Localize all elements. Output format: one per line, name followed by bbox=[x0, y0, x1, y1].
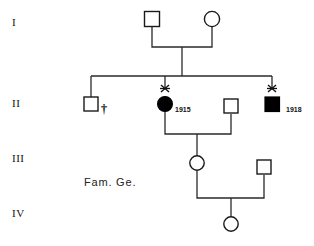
generation-label-IV: IV bbox=[12, 207, 25, 219]
symbol-square-unaffected-male[interactable] bbox=[224, 99, 238, 113]
deceased-dagger-icon: † bbox=[101, 102, 107, 116]
symbol-square-affected-male[interactable] bbox=[265, 97, 280, 112]
connector-lines bbox=[91, 27, 272, 217]
symbol-circle-affected-female[interactable] bbox=[158, 97, 173, 112]
symbol-square-unaffected-male[interactable] bbox=[145, 12, 160, 27]
generation-label-I: I bbox=[12, 16, 16, 28]
symbol-circle-unaffected-female[interactable] bbox=[190, 156, 204, 170]
individual-I-2[interactable] bbox=[204, 11, 219, 26]
individual-II-3[interactable] bbox=[224, 99, 238, 113]
marriage-line-union-III bbox=[197, 170, 264, 198]
pedigree-canvas: I II III IV bbox=[0, 0, 314, 246]
birth-year-label: 1915 bbox=[175, 106, 191, 113]
symbol-square-unaffected-male[interactable] bbox=[84, 97, 98, 111]
individual-III-2[interactable] bbox=[257, 160, 271, 174]
individual-II-2[interactable]: 1915 bbox=[158, 85, 191, 113]
marriage-line-union-I bbox=[152, 27, 212, 47]
individual-I-1[interactable] bbox=[145, 12, 160, 27]
individual-II-4[interactable]: 1918 bbox=[265, 85, 302, 113]
symbol-circle-unaffected-female[interactable] bbox=[204, 11, 219, 26]
birth-year-label: 1918 bbox=[286, 106, 302, 113]
generation-labels: I II III IV bbox=[12, 16, 25, 219]
generation-label-II: II bbox=[12, 97, 20, 109]
generation-label-III: III bbox=[12, 152, 25, 164]
symbol-square-unaffected-male[interactable] bbox=[257, 160, 271, 174]
symbol-circle-unaffected-female[interactable] bbox=[224, 217, 238, 231]
marriage-line-union-II bbox=[165, 112, 231, 134]
family-name-label: Fam. Ge. bbox=[84, 176, 136, 188]
pedigree-chart-figure: I II III IV bbox=[0, 0, 314, 246]
individual-II-1[interactable]: † bbox=[84, 97, 107, 116]
individual-III-1[interactable] bbox=[190, 156, 204, 170]
individual-IV-1[interactable] bbox=[224, 217, 238, 231]
